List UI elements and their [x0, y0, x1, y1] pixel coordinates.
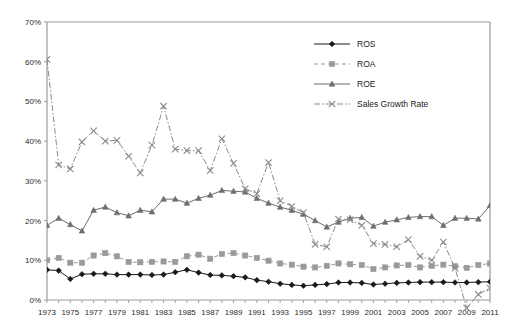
data-point-marker — [359, 262, 364, 267]
data-point-marker — [230, 160, 236, 166]
x-tick-label: 1979 — [108, 308, 126, 317]
data-point-marker — [382, 265, 387, 270]
data-point-marker — [67, 166, 73, 172]
chart-legend: ROS ROA ROE Sales Growth Rate — [313, 34, 488, 114]
data-point-marker — [208, 256, 213, 261]
legend-label-roa: ROA — [357, 60, 375, 69]
data-point-marker — [371, 282, 377, 288]
y-tick-label: 60% — [25, 58, 41, 67]
data-point-marker — [406, 280, 412, 286]
data-point-marker — [56, 255, 61, 260]
data-point-marker — [394, 263, 399, 268]
x-tick-label: 1973 — [38, 308, 56, 317]
data-point-marker — [336, 261, 341, 266]
data-point-marker — [359, 214, 365, 219]
y-tick-label: 40% — [25, 137, 41, 146]
data-point-marker — [476, 279, 482, 285]
chart-container: 0%10%20%30%40%50%60%70%19731975197719791… — [0, 0, 515, 326]
data-point-marker — [149, 142, 155, 148]
legend-label-ros: ROS — [357, 40, 375, 49]
data-point-marker — [301, 264, 306, 269]
data-point-marker — [126, 259, 131, 264]
data-point-marker — [347, 280, 353, 286]
y-tick-label: 70% — [25, 18, 41, 27]
data-point-marker — [348, 262, 353, 267]
x-tick-label: 1977 — [85, 308, 103, 317]
legend-label-roe: ROE — [357, 80, 375, 89]
data-point-marker — [289, 282, 295, 288]
data-point-marker — [103, 251, 108, 256]
x-tick-label: 2009 — [458, 308, 476, 317]
data-point-marker — [359, 280, 365, 286]
data-point-marker — [219, 136, 225, 142]
x-tick-label: 1991 — [248, 308, 266, 317]
data-point-marker — [137, 170, 143, 176]
data-point-marker — [195, 147, 201, 153]
data-point-marker — [207, 272, 213, 278]
data-point-marker — [266, 279, 272, 285]
series-ros — [44, 267, 493, 288]
data-point-marker — [324, 263, 329, 268]
data-point-marker — [149, 259, 154, 264]
legend-swatch-ros — [313, 38, 351, 50]
y-tick-label: 10% — [25, 256, 41, 265]
data-point-marker — [359, 222, 365, 228]
data-point-marker — [114, 254, 119, 259]
x-tick-label: 2011 — [481, 308, 499, 317]
data-point-marker — [417, 279, 423, 285]
x-tick-label: 2005 — [411, 308, 429, 317]
data-point-marker — [277, 281, 283, 287]
data-point-marker — [487, 202, 493, 207]
data-point-marker — [452, 280, 458, 286]
legend-item-roa: ROA — [313, 54, 488, 74]
data-point-marker — [312, 282, 318, 288]
data-point-marker — [441, 262, 446, 267]
x-tick-label: 1997 — [318, 308, 336, 317]
x-tick-label: 1981 — [131, 308, 149, 317]
data-point-marker — [79, 271, 85, 277]
series-roe — [44, 187, 493, 233]
data-point-marker — [114, 272, 120, 278]
data-point-marker — [242, 275, 248, 281]
legend-swatch-roe — [313, 78, 351, 90]
data-point-marker — [243, 253, 248, 258]
data-point-marker — [429, 263, 434, 268]
data-point-marker — [406, 262, 411, 267]
data-point-marker — [90, 128, 96, 134]
legend-label-sales-growth-rate: Sales Growth Rate — [357, 100, 428, 109]
legend-item-ros: ROS — [313, 34, 488, 54]
x-tick-label: 2003 — [388, 308, 406, 317]
legend-swatch-sales-growth-rate — [313, 98, 351, 110]
data-point-marker — [464, 280, 470, 286]
data-point-marker — [125, 153, 131, 159]
x-tick-label: 1985 — [178, 308, 196, 317]
data-point-marker — [207, 167, 213, 173]
data-point-marker — [68, 222, 74, 227]
data-point-marker — [382, 281, 388, 287]
data-point-marker — [487, 279, 493, 285]
data-point-marker — [219, 187, 225, 192]
data-point-marker — [265, 159, 271, 165]
data-point-marker — [231, 251, 236, 256]
x-tick-label: 2001 — [365, 308, 383, 317]
data-point-marker — [126, 272, 132, 278]
data-point-marker — [475, 291, 481, 297]
data-point-marker — [160, 103, 166, 109]
data-point-marker — [137, 207, 143, 212]
data-point-marker — [91, 253, 96, 258]
data-point-marker — [301, 283, 307, 289]
data-point-marker — [184, 267, 190, 273]
data-point-marker — [336, 280, 342, 286]
data-point-marker — [441, 222, 447, 227]
data-point-marker — [79, 139, 85, 145]
series-roa — [44, 251, 492, 272]
data-point-marker — [417, 265, 422, 270]
data-point-marker — [440, 239, 446, 245]
data-point-marker — [196, 270, 202, 276]
data-point-marker — [487, 261, 492, 266]
data-point-marker — [417, 253, 423, 259]
data-point-marker — [329, 61, 334, 66]
data-point-marker — [161, 259, 166, 264]
data-point-marker — [313, 265, 318, 270]
data-point-marker — [91, 271, 97, 277]
